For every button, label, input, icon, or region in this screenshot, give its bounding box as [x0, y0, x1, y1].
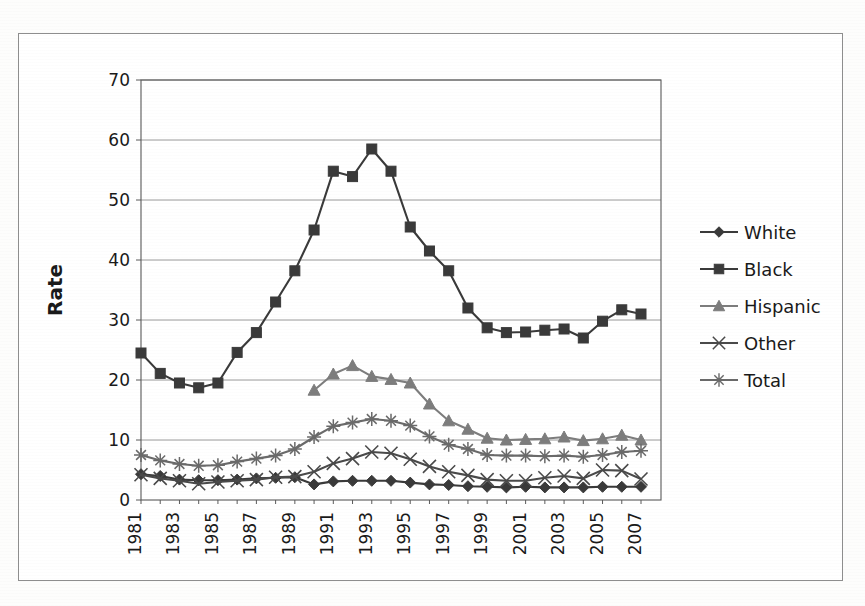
marker-square: [213, 378, 223, 388]
x-tick-label: 2005: [587, 512, 607, 555]
marker-square: [444, 266, 454, 276]
marker-asterisk: [422, 429, 436, 443]
legend-label: Total: [743, 370, 786, 391]
marker-asterisk: [192, 459, 206, 473]
marker-square: [194, 383, 204, 393]
figure-canvas: 010203040506070Rate198119831985198719891…: [0, 0, 865, 606]
legend-label: Black: [744, 259, 793, 280]
marker-asterisk: [403, 419, 417, 433]
marker-asterisk: [326, 419, 340, 433]
marker-square: [714, 264, 724, 274]
marker-asterisk: [211, 458, 225, 472]
marker-square: [386, 166, 396, 176]
marker-square: [232, 347, 242, 357]
marker-asterisk: [153, 453, 167, 467]
y-tick-label: 40: [108, 250, 130, 270]
x-tick-label: 2001: [510, 512, 530, 555]
y-tick-label: 10: [108, 430, 130, 450]
marker-asterisk: [172, 457, 186, 471]
marker-square: [559, 324, 569, 334]
x-tick-label: 1995: [394, 512, 414, 555]
x-tick-label: 1991: [317, 512, 337, 555]
legend-item-total[interactable]: Total: [700, 370, 786, 391]
marker-asterisk: [712, 373, 725, 386]
marker-asterisk: [346, 416, 360, 430]
marker-square: [463, 303, 473, 313]
marker-asterisk: [634, 444, 648, 458]
marker-asterisk: [230, 455, 244, 469]
marker-square: [251, 328, 261, 338]
marker-asterisk: [480, 448, 494, 462]
x-tick-label: 1993: [356, 512, 376, 555]
x-tick-label: 1999: [471, 512, 491, 555]
y-tick-label: 20: [108, 370, 130, 390]
marker-asterisk: [442, 438, 456, 452]
marker-asterisk: [249, 452, 263, 466]
marker-diamond: [714, 227, 724, 237]
legend: WhiteBlackHispanicOtherTotal: [700, 222, 821, 391]
legend-item-hispanic[interactable]: Hispanic: [700, 296, 821, 317]
marker-asterisk: [461, 442, 475, 456]
line-chart: 010203040506070Rate198119831985198719891…: [0, 0, 865, 606]
marker-square: [540, 325, 550, 335]
marker-square: [636, 309, 646, 319]
marker-square: [309, 225, 319, 235]
marker-square: [155, 368, 165, 378]
marker-square: [367, 144, 377, 154]
x-tick-label: 2007: [625, 512, 645, 555]
marker-asterisk: [134, 448, 148, 462]
marker-square: [290, 266, 300, 276]
legend-label: White: [744, 222, 796, 243]
x-tick-label: 1987: [240, 512, 260, 555]
legend-item-black[interactable]: Black: [700, 259, 793, 280]
marker-square: [271, 297, 281, 307]
marker-asterisk: [307, 430, 321, 444]
x-tick-label: 2003: [548, 512, 568, 555]
marker-square: [348, 172, 358, 182]
y-tick-label: 70: [108, 70, 130, 90]
x-tick-label: 1981: [125, 512, 145, 555]
marker-square: [174, 378, 184, 388]
marker-square: [328, 166, 338, 176]
y-tick-label: 30: [108, 310, 130, 330]
marker-asterisk: [615, 445, 629, 459]
legend-item-other[interactable]: Other: [700, 333, 796, 354]
marker-square: [405, 222, 415, 232]
y-tick-label: 0: [119, 490, 130, 510]
x-tick-label: 1989: [279, 512, 299, 555]
marker-square: [617, 305, 627, 315]
marker-square: [578, 333, 588, 343]
marker-asterisk: [288, 442, 302, 456]
legend-label: Other: [744, 333, 796, 354]
y-tick-label: 50: [108, 190, 130, 210]
y-axis-title: Rate: [43, 264, 67, 316]
x-tick-label: 1997: [433, 512, 453, 555]
marker-square: [136, 348, 146, 358]
marker-asterisk: [384, 414, 398, 428]
marker-square: [521, 327, 531, 337]
marker-square: [482, 323, 492, 333]
marker-square: [598, 316, 608, 326]
legend-label: Hispanic: [744, 296, 821, 317]
marker-square: [501, 328, 511, 338]
marker-asterisk: [269, 449, 283, 463]
marker-square: [424, 246, 434, 256]
x-tick-label: 1983: [163, 512, 183, 555]
legend-item-white[interactable]: White: [700, 222, 796, 243]
x-tick-label: 1985: [202, 512, 222, 555]
y-tick-label: 60: [108, 130, 130, 150]
marker-asterisk: [365, 412, 379, 426]
